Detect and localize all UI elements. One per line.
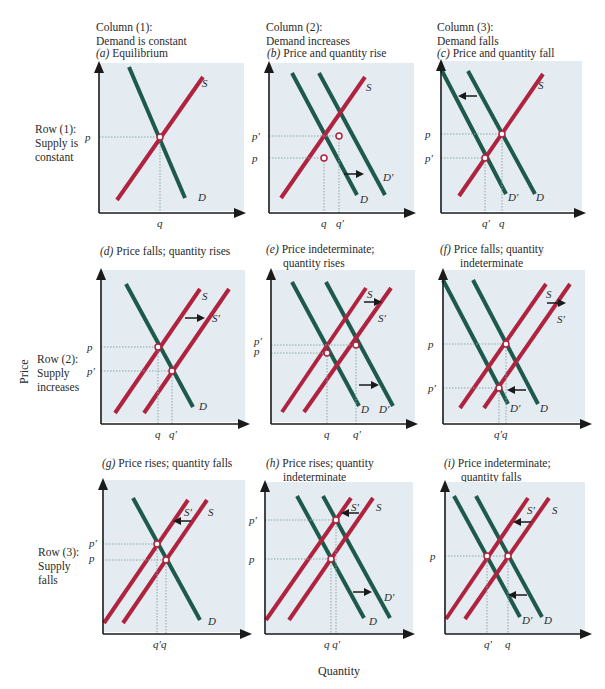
label-p-prime: p′ — [427, 382, 437, 394]
equilibrium-point-new — [353, 342, 359, 348]
caption-h-text1: Price rises; quantity — [282, 457, 373, 469]
label-p-prime: p′ — [88, 537, 98, 549]
y-axis-title: Price — [17, 359, 32, 384]
label-p: p — [248, 553, 255, 565]
label-q-prime: q′ — [484, 638, 493, 650]
equilibrium-point-new — [154, 541, 160, 547]
caption-g: (g) Price rises; quantity falls — [102, 456, 232, 470]
label-s: S — [546, 288, 552, 300]
panel-e-chart: S S′ D D′ p′ p q q′ — [240, 262, 420, 442]
label-q-prime-q: q′q — [153, 638, 167, 650]
equilibrium-point-initial — [321, 155, 327, 161]
label-d-prime: D′ — [509, 402, 521, 414]
equilibrium-point-new — [482, 155, 488, 161]
panel-d-chart: S S′ D p p′ q q′ — [60, 262, 255, 442]
label-s: S — [367, 288, 373, 300]
panel-g-chart: S′ S D p′ p q′q — [60, 478, 255, 658]
equilibrium-point-initial — [155, 344, 161, 350]
label-s: S — [208, 506, 214, 518]
label-s-prime: S′ — [527, 504, 536, 516]
caption-i-letter: (i) — [444, 457, 455, 469]
panel-a-chart: S D p q — [60, 55, 255, 230]
equilibrium-point-new — [496, 385, 502, 391]
label-s-prime: S′ — [378, 312, 387, 324]
equilibrium-point-new — [336, 133, 342, 139]
label-p-prime: p′ — [86, 365, 96, 377]
panel-b-chart: S D D′ p′ p q q′ — [240, 55, 420, 230]
caption-d-text: Price falls; quantity rises — [116, 245, 230, 257]
plot-background — [103, 480, 245, 632]
column-header-1: Column (1): Demand is constant — [96, 20, 187, 48]
equilibrium-point-new — [333, 517, 339, 523]
label-q-q-prime: q q′ — [324, 638, 341, 650]
label-d-prime: D′ — [521, 614, 533, 626]
label-d: D — [198, 400, 207, 412]
label-p: p — [88, 552, 95, 564]
panel-c-chart: S D′ D p p′ q′ q — [410, 55, 605, 230]
column-header-3-line1: Column (3): — [437, 20, 499, 34]
label-d-prime: D′ — [378, 403, 390, 415]
label-s-prime: S′ — [184, 506, 193, 518]
equilibrium-point-new — [169, 368, 175, 374]
equilibrium-point-initial — [505, 553, 511, 559]
panel-h-chart: S′ S D D′ p′ p q q′ — [240, 478, 420, 658]
column-header-2-line1: Column (2): — [266, 20, 350, 34]
label-d: D — [368, 615, 377, 627]
label-d: D — [543, 614, 552, 626]
label-q: q — [155, 428, 161, 440]
label-q: q — [505, 638, 511, 650]
label-s: S — [538, 79, 544, 91]
caption-d: (d) Price falls; quantity rises — [100, 244, 230, 258]
label-d: D — [359, 193, 368, 205]
x-axis-title: Quantity — [318, 664, 360, 679]
column-header-2: Column (2): Demand increases — [266, 20, 350, 48]
label-p: p — [251, 152, 258, 164]
label-q-prime: q′ — [353, 428, 362, 440]
equilibrium-point-initial — [499, 131, 505, 137]
label-s: S — [202, 290, 208, 302]
label-s-prime: S′ — [557, 313, 566, 325]
label-s: S — [202, 77, 208, 89]
label-d-prime: D′ — [382, 171, 394, 183]
label-p-prime: p′ — [248, 514, 258, 526]
panel-f-chart: S S′ D′ D p p′ q′q — [410, 262, 605, 442]
caption-e-text1: Price indeterminate; — [282, 243, 375, 255]
label-d: D — [535, 191, 544, 203]
label-p: p — [84, 131, 91, 143]
caption-h-letter: (h) — [266, 457, 279, 469]
label-q-prime-q: q′q — [494, 428, 508, 440]
label-p: p — [253, 345, 260, 357]
caption-d-letter: (d) — [100, 245, 113, 257]
label-q: q — [324, 428, 330, 440]
label-q-prime: q′ — [482, 217, 491, 229]
label-d: D — [360, 403, 369, 415]
label-p-prime: p′ — [424, 152, 434, 164]
label-q: q — [321, 217, 327, 229]
label-d-prime: D′ — [507, 191, 519, 203]
label-d-prime: D′ — [383, 591, 395, 603]
caption-f-text1: Price falls; quantity — [454, 243, 544, 255]
label-s-prime: S′ — [351, 501, 360, 513]
column-header-3: Column (3): Demand falls — [437, 20, 499, 48]
equilibrium-point-initial — [503, 341, 509, 347]
equilibrium-point-new — [484, 553, 490, 559]
equilibrium-point — [157, 134, 163, 140]
column-header-1-line1: Column (1): — [96, 20, 187, 34]
caption-f-letter: (f) — [440, 243, 451, 255]
equilibrium-point-initial — [328, 556, 334, 562]
label-q: q — [499, 217, 505, 229]
label-p-prime: p′ — [251, 130, 261, 142]
equilibrium-point-initial — [163, 557, 169, 563]
label-p: p — [427, 338, 434, 350]
equilibrium-point-initial — [324, 350, 330, 356]
caption-i-text1: Price indeterminate; — [458, 457, 551, 469]
label-d: D — [207, 615, 216, 627]
label-s: S — [366, 81, 372, 93]
label-p: p — [424, 128, 431, 140]
label-p: p — [429, 550, 436, 562]
label-s: S — [552, 504, 558, 516]
label-s: S — [376, 501, 382, 513]
label-q: q — [157, 217, 163, 229]
label-d: D — [197, 191, 206, 203]
panel-i-chart: S′ S D′ D p q′ q — [410, 478, 605, 658]
